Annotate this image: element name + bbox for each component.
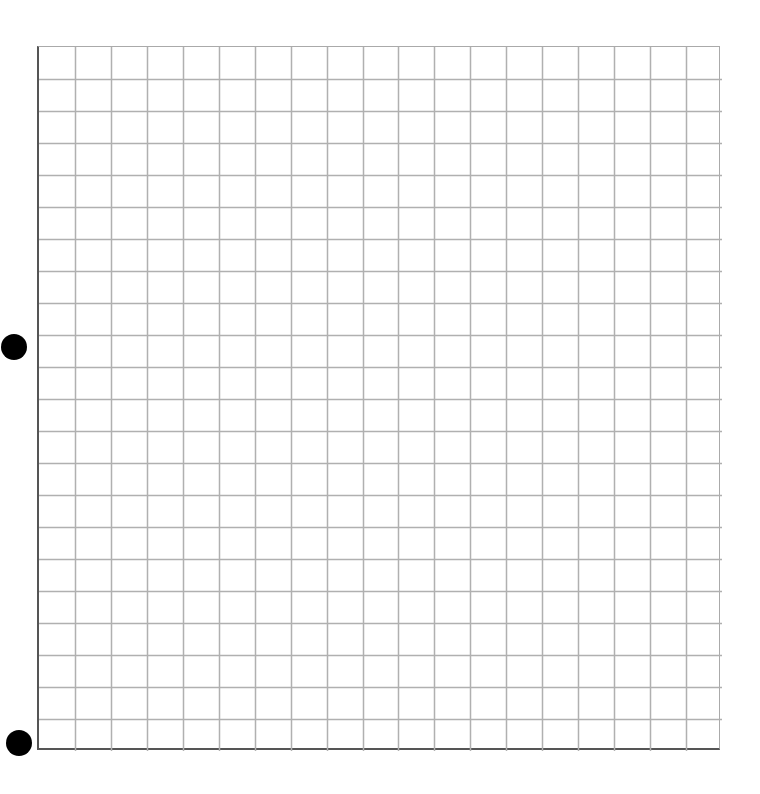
grid-lines	[39, 47, 722, 751]
marker-dot-middle	[1, 334, 27, 360]
marker-dot-bottom	[6, 730, 32, 756]
graph-paper-grid	[37, 46, 720, 750]
